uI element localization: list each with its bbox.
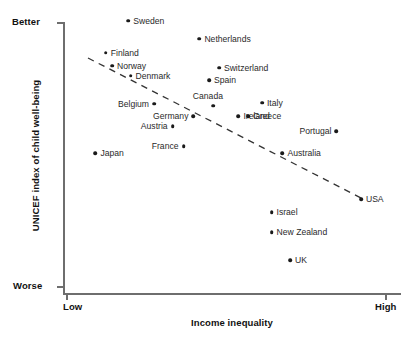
scatter-chart: Better Worse Low High UNICEF index of ch… [0,0,417,340]
trend-line [0,0,417,340]
